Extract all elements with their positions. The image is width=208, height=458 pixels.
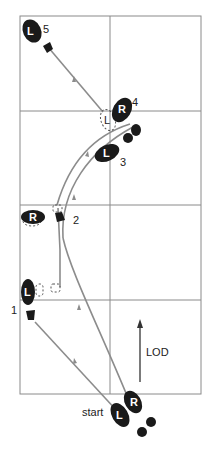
start-foot-letter-r: R [130, 396, 138, 408]
step-number-4: 4 [132, 96, 138, 108]
foot-letter-3: L [103, 147, 110, 159]
start-foot-letter-l: L [116, 409, 123, 421]
floor-grid [20, 16, 201, 394]
ghost-foot-1 [36, 284, 43, 296]
footprints [19, 16, 156, 437]
heel-4a [131, 124, 141, 136]
foot-letter-1: L [24, 286, 31, 298]
foot-letter-2: R [29, 211, 37, 223]
step-number-5: 5 [43, 23, 49, 35]
foot-letter-5: L [27, 25, 34, 37]
lod-label: LOD [146, 346, 169, 358]
start-heel-l [137, 427, 147, 437]
step-number-3: 3 [120, 156, 126, 168]
heel-1 [26, 310, 35, 320]
footwork-diagram: L L R L R L L R 5 4 3 2 1 LOD [0, 0, 208, 458]
step-number-1: 1 [11, 304, 17, 316]
start-heel-r [146, 417, 156, 427]
foot-letter-4: R [118, 103, 126, 115]
ghost-heel-1 [51, 284, 60, 292]
lod-arrow-icon [137, 319, 143, 382]
heel-4b [123, 133, 133, 143]
start-label: start [82, 406, 103, 418]
step-number-2: 2 [73, 214, 79, 226]
ghost-foot-letter: L [104, 114, 110, 126]
